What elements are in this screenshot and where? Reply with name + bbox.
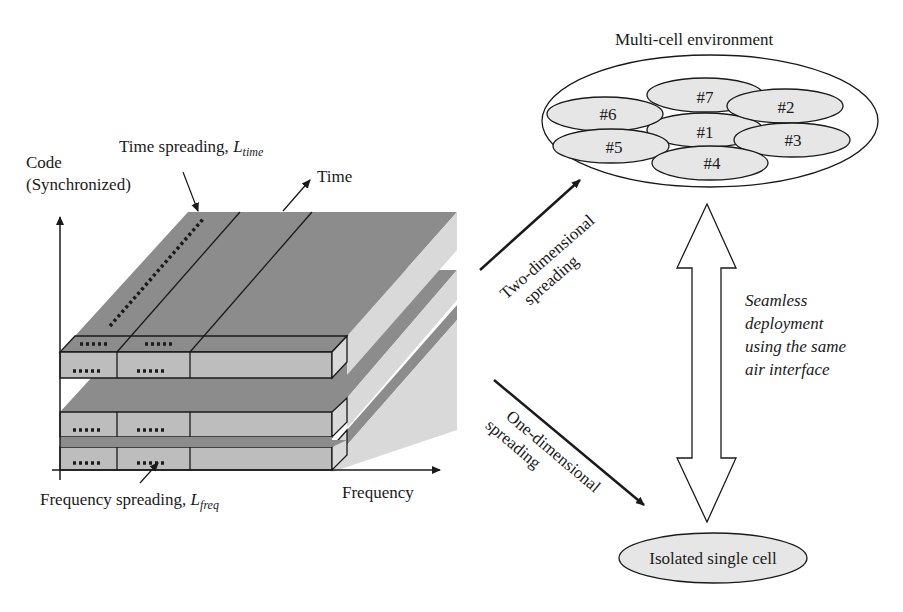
isolated-cell-label: Isolated single cell (649, 549, 777, 568)
svg-text:Seamless: Seamless (745, 291, 808, 310)
svg-text:#4: #4 (704, 154, 722, 173)
time-axis (283, 180, 310, 211)
svg-text:#6: #6 (600, 105, 617, 124)
svg-text:#7: #7 (697, 88, 715, 107)
freq-spreading-label: Frequency spreading, Lfreq (40, 490, 219, 512)
svg-text:air interface: air interface (745, 360, 830, 379)
code-axis-label-line1: Code (26, 153, 62, 172)
frequency-axis-label: Frequency (342, 483, 414, 502)
svg-text:#5: #5 (606, 138, 623, 157)
code-axis-label-line2: (Synchronized) (26, 175, 131, 194)
time-spreading-pointer (183, 172, 198, 211)
slab-stack (60, 212, 457, 472)
svg-text:deployment: deployment (745, 314, 825, 333)
seamless-deployment-text: Seamless deployment using the same air i… (745, 291, 847, 379)
multi-cell-title: Multi-cell environment (615, 30, 773, 49)
diagram-canvas: Code (Synchronized) Time spreading, Ltim… (0, 0, 903, 612)
two-dimensional-label: Two-dimensional spreading (496, 211, 611, 319)
svg-text:#1: #1 (697, 123, 714, 142)
svg-text:#3: #3 (785, 131, 802, 150)
time-spreading-label: Time spreading, Ltime (119, 137, 264, 159)
svg-text:using the same: using the same (745, 337, 847, 356)
seamless-double-arrow (677, 204, 736, 522)
svg-text:#2: #2 (778, 98, 795, 117)
time-axis-label: Time (317, 167, 352, 186)
